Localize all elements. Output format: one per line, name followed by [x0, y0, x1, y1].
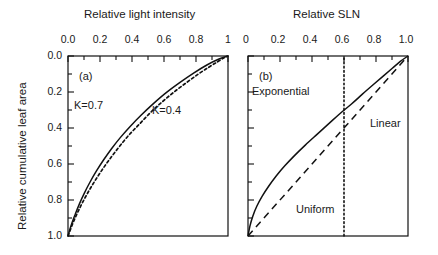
- panel-a-xticks: [68, 56, 228, 62]
- series-k-0-7-curve: [68, 56, 228, 236]
- plot-svg: [0, 0, 438, 255]
- panel-b-xticks: [248, 56, 408, 62]
- series-linear-line: [248, 56, 408, 236]
- series-k-0-4-curve: [68, 56, 228, 236]
- figure-panel-group: Relative light intensity Relative SLN Re…: [0, 0, 438, 255]
- panel-a-yticks: [68, 56, 74, 236]
- panel-a-frame: [68, 56, 228, 236]
- panel-b-yticks: [248, 56, 254, 236]
